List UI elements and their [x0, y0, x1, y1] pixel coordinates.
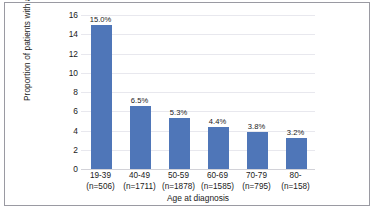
bar[interactable]	[208, 127, 229, 169]
x-axis-tick-label: 40-49(n=1711)	[118, 171, 162, 192]
x-axis-tick-labels: 19-39(n=506)40-49(n=1711)50-59(n=1878)60…	[81, 171, 315, 193]
y-axis-tick-labels: 1614121086420	[61, 15, 78, 169]
x-axis-tick-label: 80-(n=158)	[274, 171, 318, 192]
y-axis-title: Proportion of patients with a pathogenic…	[23, 0, 37, 101]
x-tick-range: 19-39	[79, 171, 123, 182]
x-tick-count: (n=1711)	[118, 182, 162, 193]
bar[interactable]	[286, 138, 307, 169]
bar-group[interactable]: 4.4%	[199, 15, 237, 169]
x-axis-tick-label: 19-39(n=506)	[79, 171, 123, 192]
bar-value-label: 5.3%	[160, 108, 198, 117]
y-axis-tick-label: 4	[64, 127, 78, 135]
bar[interactable]	[130, 106, 151, 169]
bar-chart: Proportion of patients with a pathogenic…	[5, 3, 371, 207]
bar-group[interactable]: 3.8%	[238, 15, 276, 169]
x-tick-range: 70-79	[235, 171, 279, 182]
bar-group[interactable]: 15.0%	[82, 15, 120, 169]
y-axis-tick-label: 0	[64, 165, 78, 173]
gridline	[81, 169, 315, 170]
y-axis-tick-label: 10	[64, 69, 78, 77]
figure-frame: Proportion of patients with a pathogenic…	[4, 2, 370, 206]
bar-value-label: 4.4%	[199, 117, 237, 126]
x-tick-count: (n=158)	[274, 182, 318, 193]
x-tick-range: 50-59	[157, 171, 201, 182]
x-tick-count: (n=795)	[235, 182, 279, 193]
x-tick-count: (n=506)	[79, 182, 123, 193]
y-axis-tick-label: 16	[64, 11, 78, 19]
x-tick-count: (n=1878)	[157, 182, 201, 193]
bar-group[interactable]: 6.5%	[121, 15, 159, 169]
bar-value-label: 6.5%	[121, 96, 159, 105]
x-axis-tick-label: 60-69(n=1585)	[196, 171, 240, 192]
bar[interactable]	[247, 132, 268, 169]
plot-area: 15.0%6.5%5.3%4.4%3.8%3.2%	[81, 15, 315, 169]
bar-group[interactable]: 5.3%	[160, 15, 198, 169]
y-axis-tick-label: 12	[64, 50, 78, 58]
x-tick-count: (n=1585)	[196, 182, 240, 193]
y-axis-tick-label: 6	[64, 107, 78, 115]
bar[interactable]	[169, 118, 190, 169]
x-tick-range: 60-69	[196, 171, 240, 182]
bar[interactable]	[91, 25, 112, 169]
bar-value-label: 3.8%	[238, 122, 276, 131]
bar-group[interactable]: 3.2%	[277, 15, 315, 169]
x-axis-tick-label: 70-79(n=795)	[235, 171, 279, 192]
y-axis-tick-label: 8	[64, 88, 78, 96]
x-axis-tick-label: 50-59(n=1878)	[157, 171, 201, 192]
x-axis-title: Age at diagnosis	[81, 193, 315, 203]
bar-value-label: 3.2%	[277, 128, 315, 137]
y-axis-tick-label: 2	[64, 146, 78, 154]
y-axis-tick-label: 14	[64, 30, 78, 38]
bar-value-label: 15.0%	[82, 15, 120, 24]
x-tick-range: 40-49	[118, 171, 162, 182]
x-tick-range: 80-	[274, 171, 318, 182]
